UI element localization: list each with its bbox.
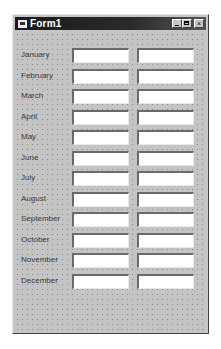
textbox-col2-july[interactable] [137,171,194,186]
form-window: Form1 × JanuaryFebruaryMarchAprilMayJune… [12,14,209,334]
form-row-march: March [15,90,206,106]
textbox-col2-august[interactable] [137,192,194,207]
textbox-col1-january[interactable] [72,48,129,63]
minimize-button[interactable] [172,19,182,28]
textbox-col2-june[interactable] [137,151,194,166]
form-row-april: April [15,111,206,127]
month-label: July [21,173,35,182]
form-row-september: September [15,213,206,229]
month-label: November [21,255,58,264]
textbox-col1-july[interactable] [72,171,129,186]
window-controls: × [172,19,204,28]
textbox-col2-october[interactable] [137,233,194,248]
form-row-june: June [15,152,206,168]
textbox-col1-april[interactable] [72,110,129,125]
close-button[interactable]: × [194,19,204,28]
month-label: December [21,276,58,285]
month-label: September [21,214,60,223]
textbox-col1-november[interactable] [72,253,129,268]
textbox-col2-february[interactable] [137,69,194,84]
textbox-col1-december[interactable] [72,274,129,289]
textbox-col2-april[interactable] [137,110,194,125]
month-label: June [21,153,38,162]
textbox-col1-march[interactable] [72,89,129,104]
textbox-col2-march[interactable] [137,89,194,104]
form-icon[interactable] [18,20,27,28]
maximize-button[interactable] [182,19,192,28]
textbox-col1-may[interactable] [72,130,129,145]
title-bar[interactable]: Form1 × [15,17,206,30]
textbox-col1-september[interactable] [72,212,129,227]
textbox-col1-february[interactable] [72,69,129,84]
window-title: Form1 [30,18,62,29]
form-row-january: January [15,49,206,65]
textbox-col2-january[interactable] [137,48,194,63]
month-label: January [21,50,49,59]
form-row-may: May [15,131,206,147]
textbox-col1-june[interactable] [72,151,129,166]
form-row-december: December [15,275,206,291]
form-client-area: JanuaryFebruaryMarchAprilMayJuneJulyAugu… [15,32,206,331]
textbox-col1-august[interactable] [72,192,129,207]
form-row-february: February [15,70,206,86]
textbox-col2-november[interactable] [137,253,194,268]
month-label: March [21,91,43,100]
form-row-august: August [15,193,206,209]
month-label: February [21,71,53,80]
textbox-col1-october[interactable] [72,233,129,248]
month-label: October [21,235,49,244]
form-row-november: November [15,254,206,270]
textbox-col2-september[interactable] [137,212,194,227]
textbox-col2-may[interactable] [137,130,194,145]
month-label: August [21,194,46,203]
textbox-col2-december[interactable] [137,274,194,289]
month-label: May [21,132,36,141]
form-row-july: July [15,172,206,188]
month-label: April [21,112,37,121]
form-row-october: October [15,234,206,250]
